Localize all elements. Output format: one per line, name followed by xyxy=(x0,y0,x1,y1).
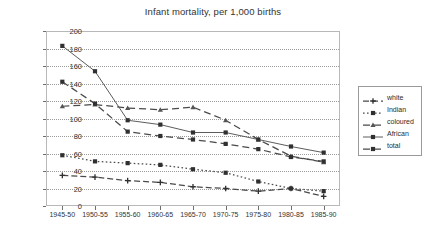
square-marker xyxy=(362,104,384,114)
gridline xyxy=(47,136,339,137)
gridline xyxy=(47,154,339,155)
square-marker xyxy=(362,128,384,138)
legend-item-total[interactable]: total xyxy=(362,139,418,151)
legend-label: African xyxy=(387,130,409,137)
y-tick-mark xyxy=(43,154,46,155)
plus-marker xyxy=(362,92,384,102)
chart-container: Infant mortality, per 1,000 births white… xyxy=(0,0,426,236)
square-marker xyxy=(371,147,375,151)
legend-item-african[interactable]: African xyxy=(362,127,418,139)
y-tick-mark xyxy=(43,119,46,120)
y-tick-label: 200 xyxy=(60,27,82,36)
legend-label: coloured xyxy=(387,118,414,125)
x-tick-mark xyxy=(160,206,161,210)
legend-item-indian[interactable]: Indian xyxy=(362,103,418,115)
y-tick-label: 120 xyxy=(60,97,82,106)
x-tick-mark xyxy=(324,206,325,210)
gridline xyxy=(47,101,339,102)
square-marker xyxy=(371,111,375,115)
y-tick-label: 60 xyxy=(60,150,82,159)
chart-legend: whiteIndiancolouredAfricantotal xyxy=(358,86,422,156)
square-marker xyxy=(371,135,375,139)
y-tick-label: 20 xyxy=(60,185,82,194)
x-tick-label: 1985-90 xyxy=(294,211,354,218)
x-tick-mark xyxy=(291,206,292,210)
y-tick-mark xyxy=(43,31,46,32)
gridline xyxy=(47,171,339,172)
square-marker xyxy=(362,140,384,150)
y-tick-label: 100 xyxy=(60,115,82,124)
legend-label: Indian xyxy=(387,106,406,113)
x-tick-mark xyxy=(128,206,129,210)
y-tick-mark xyxy=(43,171,46,172)
gridline xyxy=(47,66,339,67)
x-tick-mark xyxy=(258,206,259,210)
y-tick-label: 140 xyxy=(60,80,82,89)
y-tick-mark xyxy=(43,136,46,137)
x-tick-mark xyxy=(226,206,227,210)
y-tick-mark xyxy=(43,66,46,67)
y-tick-mark xyxy=(43,49,46,50)
y-tick-mark xyxy=(43,206,46,207)
gridline xyxy=(47,189,339,190)
x-tick-mark xyxy=(193,206,194,210)
plus-marker xyxy=(370,98,376,104)
y-tick-label: 180 xyxy=(60,45,82,54)
legend-item-white[interactable]: white xyxy=(362,91,418,103)
legend-label: total xyxy=(387,142,400,149)
y-tick-label: 160 xyxy=(60,62,82,71)
y-tick-label: 80 xyxy=(60,132,82,141)
x-tick-mark xyxy=(95,206,96,210)
plot-area xyxy=(46,31,340,206)
x-tick-mark xyxy=(62,206,63,210)
y-tick-mark xyxy=(43,101,46,102)
chart-title: Infant mortality, per 1,000 births xyxy=(0,6,426,17)
y-tick-mark xyxy=(43,84,46,85)
triangle-marker xyxy=(362,116,384,126)
gridline xyxy=(47,49,339,50)
legend-item-coloured[interactable]: coloured xyxy=(362,115,418,127)
gridline xyxy=(47,119,339,120)
y-tick-label: 40 xyxy=(60,167,82,176)
gridline xyxy=(47,84,339,85)
y-tick-mark xyxy=(43,189,46,190)
legend-label: white xyxy=(387,94,403,101)
